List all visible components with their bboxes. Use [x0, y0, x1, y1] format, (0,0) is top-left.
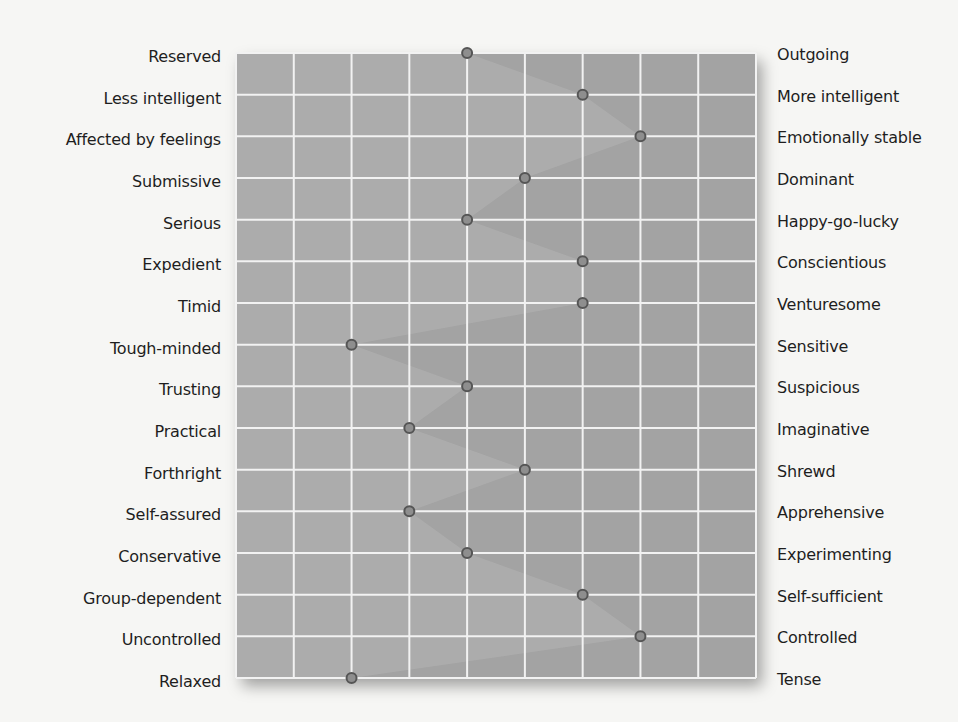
low-pole-label: Relaxed [6, 672, 221, 692]
data-point-marker [578, 298, 588, 308]
low-pole-label: Self-assured [6, 505, 221, 525]
low-pole-label: Group-dependent [6, 589, 221, 609]
data-point-marker [520, 465, 530, 475]
high-pole-label: Apprehensive [777, 503, 884, 523]
data-point-marker [462, 215, 472, 225]
data-point-marker [404, 506, 414, 516]
data-point-marker [462, 381, 472, 391]
data-point-marker [578, 590, 588, 600]
data-point-marker [520, 173, 530, 183]
high-pole-label: Shrewd [777, 462, 835, 482]
high-pole-label: Outgoing [777, 45, 849, 65]
low-pole-label: Less intelligent [6, 89, 221, 109]
high-pole-label: Happy-go-lucky [777, 212, 899, 232]
high-pole-label: Sensitive [777, 337, 848, 357]
high-pole-label: Tense [777, 670, 821, 690]
high-pole-label: Conscientious [777, 253, 886, 273]
high-pole-label: Emotionally stable [777, 128, 922, 148]
low-pole-label: Tough-minded [6, 339, 221, 359]
low-pole-label: Reserved [6, 47, 221, 67]
low-pole-label: Expedient [6, 255, 221, 275]
personality-profile-chart: ReservedLess intelligentAffected by feel… [0, 0, 958, 722]
data-point-marker [635, 131, 645, 141]
low-pole-label: Trusting [6, 380, 221, 400]
high-pole-label: Controlled [777, 628, 857, 648]
low-pole-label: Conservative [6, 547, 221, 567]
high-pole-label: Dominant [777, 170, 854, 190]
profile-band [236, 53, 640, 678]
low-pole-label: Practical [6, 422, 221, 442]
low-pole-label: Affected by feelings [6, 130, 221, 150]
high-pole-label: Imaginative [777, 420, 870, 440]
low-pole-label: Timid [6, 297, 221, 317]
high-pole-label: More intelligent [777, 87, 899, 107]
high-pole-label: Experimenting [777, 545, 892, 565]
profile-grid [236, 53, 756, 678]
plot-area [236, 53, 756, 678]
high-pole-label: Self-sufficient [777, 587, 883, 607]
low-pole-label: Serious [6, 214, 221, 234]
data-point-marker [578, 256, 588, 266]
high-pole-label: Venturesome [777, 295, 881, 315]
low-pole-label: Uncontrolled [6, 630, 221, 650]
data-point-marker [462, 548, 472, 558]
low-pole-label: Forthright [6, 464, 221, 484]
data-point-marker [347, 673, 357, 683]
low-pole-label: Submissive [6, 172, 221, 192]
data-point-marker [347, 340, 357, 350]
high-pole-label: Suspicious [777, 378, 860, 398]
data-point-marker [404, 423, 414, 433]
data-point-marker [578, 90, 588, 100]
data-point-marker [635, 631, 645, 641]
data-point-marker [462, 48, 472, 58]
